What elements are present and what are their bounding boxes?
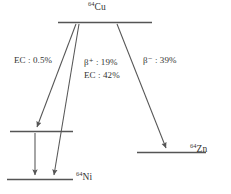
- mass-number-zn64: 64: [190, 142, 197, 149]
- decay-scheme-figure: 64Cu 64Ni 64Zn EC : 0.5% β⁺ : 19% EC : 4…: [0, 0, 231, 194]
- branch-label-beta-minus-39: β⁻ : 39%: [143, 55, 177, 65]
- nuclide-label-zn64: 64Zn: [190, 144, 207, 155]
- nuclide-label-cu64: 64Cu: [88, 2, 106, 13]
- transition-arrow-beta-plus-ec-to-ground: [54, 24, 79, 175]
- branch-label-ec-0p5: EC : 0.5%: [14, 55, 52, 65]
- transition-arrow-beta-minus-to-zn64: [117, 24, 166, 148]
- element-symbol-ni64: Ni: [83, 172, 93, 182]
- mass-number-cu64: 64: [88, 0, 95, 7]
- branch-label-beta-plus-19: β⁺ : 19%: [84, 57, 118, 67]
- element-symbol-zn64: Zn: [197, 144, 208, 154]
- element-symbol-cu64: Cu: [95, 2, 106, 12]
- branch-label-ec-42: EC : 42%: [84, 70, 120, 80]
- mass-number-ni64: 64: [76, 170, 83, 177]
- decay-scheme-canvas: [0, 0, 231, 194]
- nuclide-label-ni64: 64Ni: [76, 172, 92, 183]
